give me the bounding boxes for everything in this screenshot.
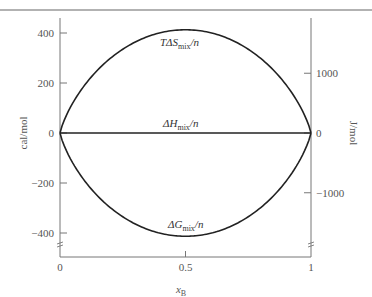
left-tick-label: 0 bbox=[49, 127, 55, 139]
axis-break-marks bbox=[57, 242, 314, 247]
right-y-axis-title: J/mol bbox=[348, 121, 360, 145]
right-tick-label: 1000 bbox=[316, 67, 339, 79]
right-tick-label: −1000 bbox=[316, 187, 345, 199]
x-tick-label: 0.5 bbox=[179, 261, 193, 273]
left-tick-label: −400 bbox=[31, 227, 54, 239]
dg-mix-label: ΔGmix/n bbox=[167, 218, 204, 233]
x-tick-label: 1 bbox=[308, 261, 314, 273]
dh-mix-label: ΔHmix/n bbox=[162, 117, 199, 132]
left-tick-label: −200 bbox=[31, 177, 54, 189]
tds-mix-label: TΔSmix/n bbox=[160, 36, 200, 51]
curves bbox=[60, 30, 311, 237]
dg-mix-curve bbox=[60, 133, 311, 236]
chart: 4002000−200−400 10000−1000 00.51 TΔSmix/… bbox=[0, 0, 372, 297]
axes bbox=[60, 18, 311, 257]
right-tick-label: 0 bbox=[316, 127, 322, 139]
left-tick-label: 400 bbox=[38, 27, 55, 39]
x-ticks: 00.51 bbox=[57, 251, 314, 273]
x-tick-label: 0 bbox=[57, 261, 63, 273]
x-axis-title: xB bbox=[175, 283, 186, 297]
left-tick-label: 200 bbox=[38, 77, 55, 89]
left-y-axis-title: cal/mol bbox=[17, 117, 29, 150]
